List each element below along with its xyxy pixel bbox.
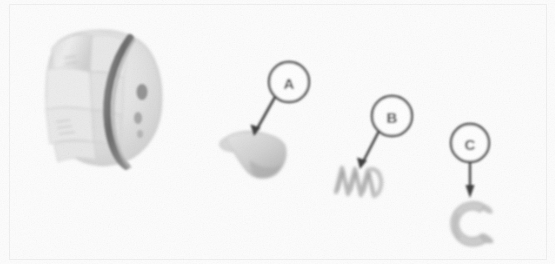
callout-c[interactable]: C	[0, 0, 555, 264]
parts-diagram-figure: A B C	[0, 0, 555, 264]
callout-c-arrowhead	[466, 185, 475, 198]
callout-c-letter: C	[465, 136, 476, 153]
